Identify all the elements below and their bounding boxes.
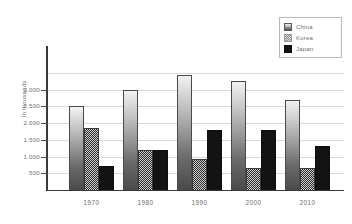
- x-axis-tick-label: 2010: [277, 199, 338, 206]
- legend-item-label: China: [296, 24, 313, 30]
- legend: ChinaKoreaJapan: [279, 17, 342, 58]
- x-axis-tick-label: 2000: [223, 199, 284, 206]
- legend-swatch-icon: [284, 23, 292, 31]
- bar-japan-1990: [207, 130, 222, 190]
- bar-china-2010: [285, 100, 300, 190]
- bar-korea-2000: [246, 168, 261, 190]
- bar-japan-2010: [315, 146, 330, 190]
- y-axis-tick-label: 500: [29, 169, 40, 176]
- legend-swatch-icon: [284, 34, 292, 42]
- y-axis-tick-label: 3.000: [24, 86, 40, 93]
- legend-item-korea[interactable]: Korea: [284, 32, 338, 43]
- bar-korea-2010: [300, 168, 315, 190]
- bar-group: [177, 46, 222, 190]
- x-axis-tick-label: 1970: [61, 199, 122, 206]
- bar-china-1970: [69, 106, 84, 190]
- bar-group: [69, 46, 114, 190]
- legend-swatch-icon: [284, 45, 292, 53]
- bar-japan-1970: [99, 166, 114, 190]
- bar-china-1980: [123, 90, 138, 190]
- bar-china-1990: [177, 75, 192, 190]
- x-axis-tick-label: 1980: [115, 199, 176, 206]
- bar-japan-1980: [153, 150, 168, 190]
- y-axis-tick-label: 1.500: [24, 136, 40, 143]
- x-axis-tick-label: 1990: [169, 199, 230, 206]
- bar-korea-1980: [138, 150, 153, 190]
- legend-item-label: Korea: [296, 35, 313, 41]
- y-axis-labels: 5001.0001.5002.0002.5003.000: [0, 0, 40, 224]
- bar-group: [123, 46, 168, 190]
- legend-item-japan[interactable]: Japan: [284, 43, 338, 54]
- legend-item-china[interactable]: China: [284, 21, 338, 32]
- y-axis-tick-label: 1.000: [24, 153, 40, 160]
- x-axis-line: [46, 190, 344, 191]
- y-axis-tick-label: 2.500: [24, 102, 40, 109]
- bar-group: [231, 46, 276, 190]
- bar-korea-1990: [192, 159, 207, 190]
- bar-japan-2000: [261, 130, 276, 190]
- bar-group: [285, 46, 330, 190]
- bar-korea-1970: [84, 128, 99, 191]
- bar-chart: In thousands 5001.0001.5002.0002.5003.00…: [0, 0, 352, 224]
- bar-china-2000: [231, 81, 246, 190]
- plot-area: [47, 46, 344, 190]
- legend-item-label: Japan: [296, 46, 313, 52]
- y-axis-tick-label: 2.000: [24, 119, 40, 126]
